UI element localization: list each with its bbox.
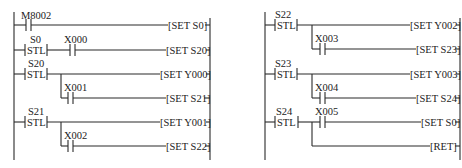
coil-label: [RET] bbox=[430, 141, 457, 152]
stl-tag: STL bbox=[277, 20, 296, 31]
stl-state-label: S20 bbox=[28, 58, 44, 69]
contact-label: X005 bbox=[315, 106, 338, 117]
left-ladder: M8002 [SET S0] S0 STL X000 [SET S2 bbox=[14, 10, 211, 160]
contact-label: X004 bbox=[315, 82, 339, 93]
contact-icon bbox=[70, 44, 75, 56]
stl-tag: STL bbox=[27, 45, 46, 56]
stl-tag: STL bbox=[277, 117, 296, 128]
coil-label: [SET Y000] bbox=[160, 69, 211, 80]
rung-s24: S24 X005 STL [SET S0] bbox=[265, 106, 460, 128]
rung-s0: S0 STL X000 [SET S20] bbox=[14, 34, 210, 56]
rung-s21: S21 STL [SET Y001] bbox=[14, 106, 211, 128]
right-ladder: S22 STL [SET Y002] X003 [SET S23] S23 bbox=[265, 9, 461, 160]
stl-state-label: S0 bbox=[30, 34, 41, 45]
stl-tag: STL bbox=[277, 69, 296, 80]
stl-state-label: S23 bbox=[275, 58, 291, 69]
contact-label: X002 bbox=[64, 130, 87, 141]
coil-label: [SET S20] bbox=[166, 45, 210, 56]
coil-label: [SET S24] bbox=[416, 93, 460, 104]
stl-state-label: S22 bbox=[275, 9, 291, 20]
contact-icon bbox=[320, 116, 325, 128]
contact-icon bbox=[320, 43, 325, 55]
rung-s22: S22 STL [SET Y002] bbox=[265, 9, 461, 31]
contact-icon bbox=[68, 140, 73, 152]
contact-icon bbox=[320, 92, 325, 104]
contact-label: X001 bbox=[64, 82, 87, 93]
coil-label: [SET Y002] bbox=[410, 20, 461, 31]
contact-icon bbox=[68, 92, 73, 104]
coil-label: [SET S0] bbox=[421, 117, 460, 128]
stl-state-label: S21 bbox=[28, 106, 44, 117]
contact-label: X003 bbox=[315, 33, 338, 44]
coil-label: [SET Y003] bbox=[410, 69, 461, 80]
contact-label: X000 bbox=[64, 34, 87, 45]
stl-state-label: S24 bbox=[276, 106, 293, 117]
coil-label: [SET S0] bbox=[168, 20, 207, 31]
coil-label: [SET S21] bbox=[166, 93, 210, 104]
rung-m8002: M8002 [SET S0] bbox=[14, 10, 210, 31]
rung-s23: S23 STL [SET Y003] bbox=[265, 58, 461, 80]
rung-s20: S20 STL [SET Y000] bbox=[14, 58, 211, 80]
stl-tag: STL bbox=[27, 69, 46, 80]
ladder-diagram: M8002 [SET S0] S0 STL X000 [SET S2 bbox=[0, 0, 462, 168]
coil-label: [SET S22] bbox=[166, 141, 210, 152]
coil-label: [SET S23] bbox=[416, 44, 460, 55]
stl-tag: STL bbox=[27, 117, 46, 128]
coil-label: [SET Y001] bbox=[160, 117, 211, 128]
